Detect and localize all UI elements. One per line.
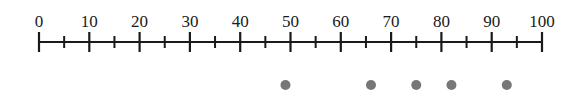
tick-label: 30 bbox=[181, 12, 198, 31]
data-point-dot bbox=[446, 80, 456, 90]
tick-labels: 0102030405060708090100 bbox=[35, 12, 555, 31]
tick-label: 0 bbox=[35, 12, 44, 31]
data-point-dot bbox=[366, 80, 376, 90]
tick-label: 50 bbox=[282, 12, 299, 31]
tick-label: 70 bbox=[383, 12, 400, 31]
tick-label: 10 bbox=[81, 12, 98, 31]
tick-label: 100 bbox=[529, 12, 555, 31]
data-points bbox=[280, 80, 511, 90]
tick-label: 60 bbox=[332, 12, 349, 31]
data-point-dot bbox=[502, 80, 512, 90]
tick-label: 90 bbox=[483, 12, 500, 31]
number-line-diagram: 0102030405060708090100 bbox=[0, 0, 583, 94]
data-point-dot bbox=[411, 80, 421, 90]
tick-marks bbox=[39, 32, 542, 52]
tick-label: 40 bbox=[232, 12, 249, 31]
tick-label: 80 bbox=[433, 12, 450, 31]
tick-label: 20 bbox=[131, 12, 148, 31]
data-point-dot bbox=[280, 80, 290, 90]
